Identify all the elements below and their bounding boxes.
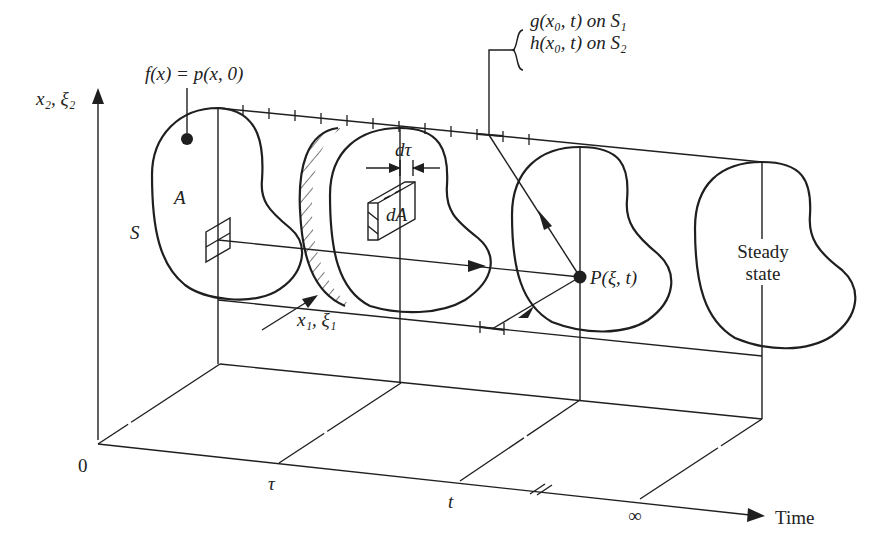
tick-label-tau: τ — [268, 473, 276, 494]
bc-label-s2: h(x₀, t) on S₂ — [530, 32, 627, 54]
steady-state-label-2: state — [746, 263, 781, 284]
arrow-up-icon — [92, 88, 104, 104]
field-point-label: P(ξ, t) — [589, 267, 637, 289]
depth-lines — [98, 364, 762, 499]
diagram-canvas: f(x) = p(x, 0) x₂, ξ₂ A S x₁, ξ₁ dτ dA g… — [0, 0, 887, 545]
region-label: A — [172, 187, 186, 208]
arrow-right-icon — [747, 508, 765, 522]
depth-axis-label: x₁, ξ₁ — [296, 309, 336, 330]
origin-label: 0 — [78, 455, 88, 476]
field-point-marker — [574, 271, 587, 284]
area-element-label: dA — [386, 204, 408, 225]
ray-bottom-to-p — [492, 277, 580, 329]
ray-initial-to-p — [218, 240, 580, 277]
d-tau-label: dτ — [395, 139, 413, 160]
top-boundary-line — [218, 105, 762, 162]
ray-top-to-p — [489, 135, 580, 277]
vertical-axis — [92, 88, 104, 440]
arrow-up-right-icon — [302, 295, 318, 308]
arrow-right-icon — [468, 260, 486, 272]
boundary-label: S — [130, 222, 140, 243]
arrow-down-icon — [538, 210, 552, 230]
initial-condition-label: f(x) = p(x, 0) — [145, 63, 243, 85]
time-axis-label: Time — [775, 507, 814, 528]
initial-point-marker — [181, 133, 193, 145]
tick-label-infinity: ∞ — [628, 505, 642, 526]
boundary-leader — [489, 50, 515, 135]
floor-back-edge — [220, 364, 762, 419]
d-tau-dimension — [366, 160, 440, 176]
steady-state-label-1: Steady — [737, 241, 789, 262]
tick-label-t: t — [448, 491, 454, 512]
vertical-axis-label: x₂, ξ₂ — [35, 88, 76, 109]
bc-label-s1: g(x₀, t) on S₁ — [530, 10, 627, 32]
